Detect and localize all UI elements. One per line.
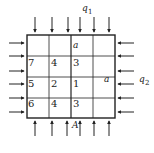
svg-text:2: 2 <box>145 79 149 87</box>
cell-r1-c1: 4 <box>51 57 57 68</box>
load-label-q2: q 2 <box>139 74 149 87</box>
cell-r2-c0: 5 <box>28 78 34 89</box>
top-load-arrows <box>35 17 109 32</box>
cell-r1-c2: 3 <box>73 57 79 68</box>
right-load-arrows <box>118 43 134 112</box>
cell-r2-c1: 2 <box>51 78 57 89</box>
cell-r3-c1: 4 <box>51 98 57 109</box>
cell-r3-c2: 3 <box>73 98 79 109</box>
point-label-a: A <box>71 120 79 130</box>
cell-r2-c3: a <box>104 74 109 84</box>
svg-text:1: 1 <box>88 8 92 16</box>
cell-r3-c0: 6 <box>28 98 34 109</box>
cell-r0-c2: a <box>73 40 78 50</box>
load-label-q1: q 1 <box>82 3 92 16</box>
cell-labels: a 7 4 3 5 2 1 a 6 4 3 <box>28 40 109 109</box>
cell-r1-c0: 7 <box>28 57 34 68</box>
grid-lines <box>27 35 115 118</box>
grid-diagram: a 7 4 3 5 2 1 a 6 4 3 q 1 q 2 A <box>0 0 154 153</box>
cell-r2-c2: 1 <box>73 78 79 89</box>
left-load-arrows <box>9 43 24 112</box>
